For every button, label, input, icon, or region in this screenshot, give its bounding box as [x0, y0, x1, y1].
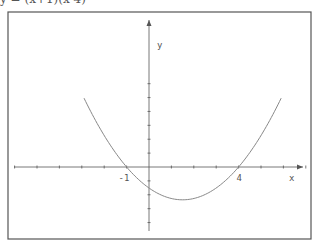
- x-axis-arrow-icon: [297, 165, 303, 170]
- y-axis-arrow-icon: [147, 20, 152, 26]
- x-axis-label: x: [289, 173, 295, 183]
- y-axis-label: y: [157, 40, 163, 50]
- function-graph: x y -14: [0, 0, 318, 250]
- axes: [14, 20, 306, 231]
- root-label: -1: [119, 173, 130, 183]
- parabola-curve: [84, 98, 281, 200]
- root-label: 4: [237, 173, 242, 183]
